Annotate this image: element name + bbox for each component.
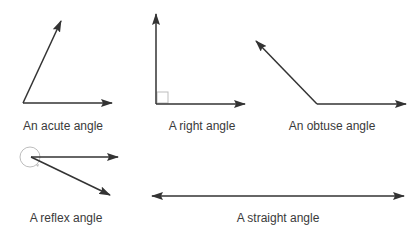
label-reflex-angle: A reflex angle: [30, 211, 103, 225]
obtuse-slanted-ray: [256, 41, 317, 104]
acute-slanted-ray: [23, 21, 61, 103]
reflex-slanted-ray: [31, 157, 110, 195]
right-angle: [156, 14, 245, 104]
angles-canvas: [0, 0, 420, 232]
acute-angle: [23, 21, 112, 103]
label-acute-angle: An acute angle: [23, 119, 103, 133]
label-straight-angle: A straight angle: [237, 211, 320, 225]
right-angle-square-marker: [157, 92, 168, 103]
label-right-angle: A right angle: [169, 119, 236, 133]
angle-types-diagram: An acute angle A right angle An obtuse a…: [0, 0, 420, 232]
label-obtuse-angle: An obtuse angle: [289, 119, 376, 133]
obtuse-angle: [256, 41, 406, 104]
reflex-angle: [20, 147, 118, 195]
